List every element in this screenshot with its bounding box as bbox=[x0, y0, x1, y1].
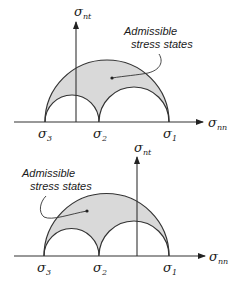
principal-label-sigma2: σ2 bbox=[93, 260, 107, 277]
region-label-line2: stress states bbox=[131, 38, 193, 50]
principal-label-sigma3: σ3 bbox=[38, 126, 52, 143]
principal-label-sigma1: σ1 bbox=[163, 126, 177, 143]
principal-label-sigma1: σ1 bbox=[163, 260, 177, 277]
axis-label-nt: σnt bbox=[134, 140, 152, 157]
principal-label-sigma2: σ2 bbox=[93, 126, 107, 143]
region-label-line2: stress states bbox=[30, 180, 92, 192]
axis-label-nn: σnn bbox=[208, 115, 227, 132]
axis-label-nn: σnn bbox=[209, 249, 228, 266]
region-label-line1: Admissible bbox=[123, 25, 177, 37]
axis-label-nt: σnt bbox=[74, 4, 92, 21]
principal-label-sigma3: σ3 bbox=[37, 260, 51, 277]
region-label-line1: Admissible bbox=[21, 167, 75, 179]
mohr-diagram-bottom: σnn σnt σ3 σ2 σ1 Admissible stress state… bbox=[14, 140, 228, 277]
mohr-circle-figure: σnn σnt σ3 σ2 σ1 Admissible stress state… bbox=[0, 0, 238, 282]
mohr-diagram-top: σnn σnt σ3 σ2 σ1 Admissible stress state… bbox=[14, 4, 227, 143]
